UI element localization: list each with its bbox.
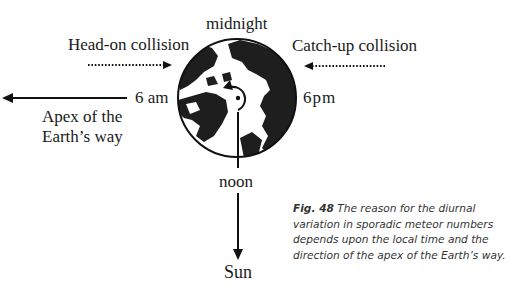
six-pm-label: 6pm [303, 88, 336, 108]
sun-label: Sun [224, 262, 252, 283]
apex-label-line2: Earth’s way [42, 127, 123, 147]
arrow-left-icon [2, 93, 127, 103]
dotted-arrow-right-icon [88, 61, 172, 69]
figure-number: Fig. 48 [293, 202, 334, 214]
globe-north-pole-icon [178, 39, 298, 168]
catch-up-collision-label: Catch-up collision [292, 36, 417, 56]
apex-label-line1: Apex of the [42, 107, 122, 127]
figure-caption: Fig. 48 The reason for the diurnal varia… [293, 201, 508, 263]
noon-label: noon [219, 172, 253, 192]
midnight-label: midnight [206, 14, 267, 34]
six-am-label: 6 am [135, 88, 169, 108]
head-on-collision-label: Head-on collision [68, 35, 189, 55]
arrow-down-icon [233, 193, 243, 260]
dotted-arrow-left-icon [304, 62, 386, 70]
